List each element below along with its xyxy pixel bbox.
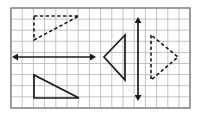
reflection-diagram	[0, 0, 200, 115]
diagram-canvas	[0, 0, 200, 115]
